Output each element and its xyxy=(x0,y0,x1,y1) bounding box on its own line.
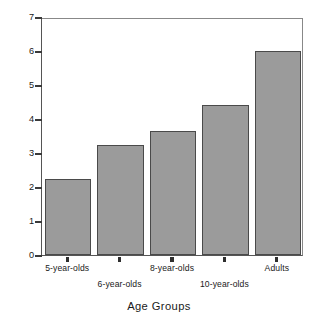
y-axis-tick-mark xyxy=(35,255,42,258)
x-axis-category-label: Adults xyxy=(232,263,318,273)
y-axis-tick-label: 6 xyxy=(0,47,34,56)
x-axis-tick-mark xyxy=(223,257,226,262)
y-axis-tick-mark xyxy=(35,51,42,54)
x-axis-title: Age Groups xyxy=(0,300,318,312)
bar xyxy=(97,145,143,256)
x-axis-tick-mark xyxy=(118,257,121,262)
y-axis-tick-mark xyxy=(35,221,42,224)
bar xyxy=(255,51,301,255)
plot-area xyxy=(41,18,303,256)
y-axis-tick-mark xyxy=(35,119,42,122)
y-axis-tick-mark xyxy=(35,187,42,190)
bar-chart: Number of Correctly Recalled Colors 7654… xyxy=(0,0,318,327)
y-axis-tick-label: 2 xyxy=(0,183,34,192)
y-axis-tick-mark xyxy=(35,17,42,20)
y-axis-tick-label: 3 xyxy=(0,149,34,158)
bar xyxy=(45,179,91,256)
y-axis-tick-mark xyxy=(35,85,42,88)
bar xyxy=(150,131,196,255)
x-axis-tick-mark xyxy=(66,257,69,262)
bar xyxy=(202,105,248,255)
x-axis-category-label: 10-year-olds xyxy=(179,279,269,289)
x-axis-tick-mark xyxy=(170,257,173,262)
y-axis-tick-label: 1 xyxy=(0,217,34,226)
y-axis-tick-label: 0 xyxy=(0,251,34,260)
y-axis-tick-label: 7 xyxy=(0,13,34,22)
y-axis-tick-label: 4 xyxy=(0,115,34,124)
x-axis-category-label: 6-year-olds xyxy=(75,279,165,289)
x-axis-tick-mark xyxy=(275,257,278,262)
y-axis-tick-mark xyxy=(35,153,42,156)
x-axis-category-label: 8-year-olds xyxy=(127,263,217,273)
y-axis-tick-label: 5 xyxy=(0,81,34,90)
x-axis-category-label: 5-year-olds xyxy=(22,263,112,273)
